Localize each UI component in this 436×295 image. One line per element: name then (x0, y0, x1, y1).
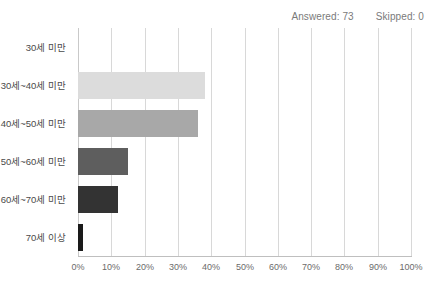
value-tick-label: 30% (169, 260, 187, 274)
value-tick-label: 60% (269, 260, 287, 274)
skipped-count: Skipped: 0 (376, 11, 424, 23)
axis-baseline (78, 256, 412, 257)
value-tick-label: 20% (136, 260, 154, 274)
bar[interactable] (78, 148, 128, 175)
value-tick-label: 10% (102, 260, 120, 274)
value-tick-label: 40% (202, 260, 220, 274)
bar[interactable] (78, 110, 198, 137)
category-label: 70세 이상 (26, 231, 66, 245)
bar-series (78, 28, 411, 256)
value-tick-label: 0% (71, 260, 84, 274)
category-axis: 30세 미만30세~40세 미만40세~50세 미만50세~60세 미만60세~… (0, 28, 72, 256)
category-label: 40세~50세 미만 (1, 117, 66, 131)
answered-count: Answered: 73 (291, 11, 353, 23)
category-label: 30세 미만 (26, 41, 66, 55)
bar[interactable] (78, 186, 118, 213)
value-tick-label: 100% (399, 260, 422, 274)
value-tick-label: 90% (369, 260, 387, 274)
plot-area (78, 28, 411, 256)
bar[interactable] (78, 224, 83, 251)
category-label: 30세~40세 미만 (1, 79, 66, 93)
top-edge-artifact (0, 0, 436, 4)
category-label: 50세~60세 미만 (1, 155, 66, 169)
value-tick-label: 70% (302, 260, 320, 274)
category-label: 60세~70세 미만 (1, 193, 66, 207)
bar[interactable] (78, 72, 205, 99)
value-tick-label: 80% (335, 260, 353, 274)
survey-bar-chart: Answered: 73 Skipped: 0 30세 미만30세~40세 미만… (0, 0, 436, 295)
value-tick-label: 50% (236, 260, 254, 274)
value-axis: 0%10%20%30%40%50%60%70%80%90%100% (78, 260, 411, 276)
response-summary: Answered: 73 Skipped: 0 (291, 11, 424, 23)
gridline-100% (411, 28, 412, 256)
